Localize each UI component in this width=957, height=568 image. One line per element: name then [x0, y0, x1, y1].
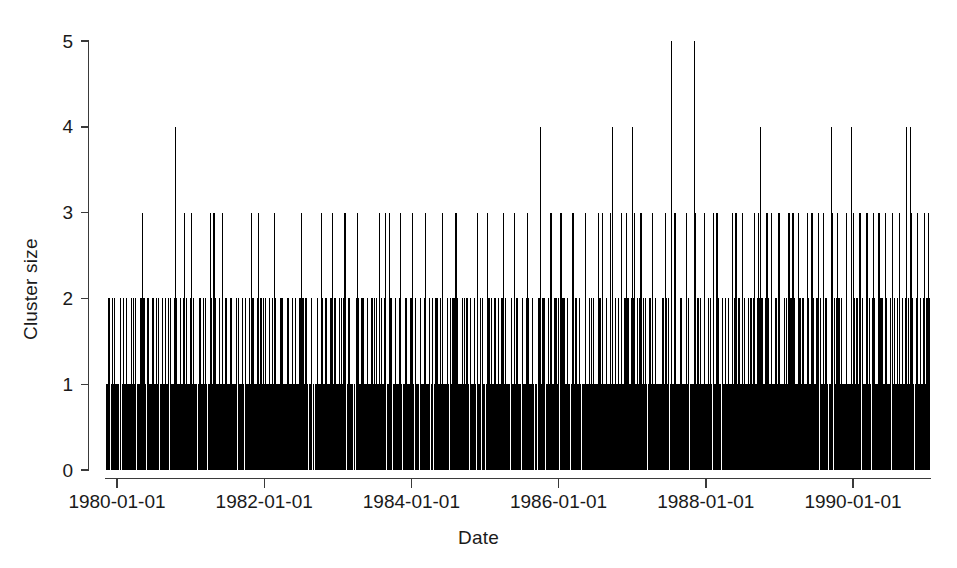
y-axis-title: Cluster size: [20, 238, 42, 340]
chart-figure: Cluster size Date 0123451980-01-011982-0…: [0, 0, 957, 568]
svg-text:5: 5: [62, 31, 73, 52]
spike-plot-canvas: 0123451980-01-011982-01-011984-01-011986…: [0, 0, 957, 568]
svg-text:1984-01-01: 1984-01-01: [363, 491, 460, 512]
svg-text:2: 2: [62, 288, 73, 309]
svg-text:0: 0: [62, 460, 73, 481]
x-axis-title: Date: [0, 527, 957, 549]
svg-text:1982-01-01: 1982-01-01: [216, 491, 313, 512]
svg-text:3: 3: [62, 202, 73, 223]
svg-text:1980-01-01: 1980-01-01: [68, 491, 165, 512]
svg-text:1986-01-01: 1986-01-01: [510, 491, 607, 512]
svg-text:1: 1: [62, 374, 73, 395]
svg-text:1990-01-01: 1990-01-01: [804, 491, 901, 512]
svg-text:1988-01-01: 1988-01-01: [657, 491, 754, 512]
spike-series: [106, 41, 930, 470]
svg-text:4: 4: [62, 116, 73, 137]
